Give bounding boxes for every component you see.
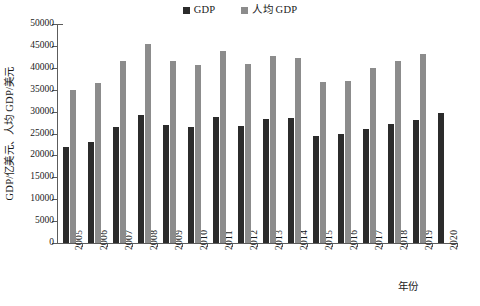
bar-per-capita-gdp-2008 (145, 44, 151, 243)
bar-per-capita-gdp-2016 (345, 81, 351, 243)
bar-per-capita-gdp-2009 (170, 61, 176, 243)
bar-gdp-2006 (88, 142, 94, 243)
chart-legend: GDP 人均 GDP (0, 5, 480, 16)
y-tick-label: 25000 (30, 128, 54, 138)
y-tick-label: 40000 (30, 62, 54, 72)
y-tick-label: 30000 (30, 106, 54, 116)
y-tick-label: 15000 (30, 171, 54, 181)
y-axis-line (57, 24, 58, 244)
bar-per-capita-gdp-2017 (370, 68, 376, 243)
bar-gdp-2011 (213, 117, 219, 243)
bar-gdp-2005 (63, 147, 69, 243)
y-tick-label: 35000 (30, 84, 54, 94)
bar-per-capita-gdp-2014 (295, 58, 301, 243)
x-axis-title: 年份 (398, 278, 419, 293)
legend-item-gdp: GDP (183, 5, 216, 16)
y-tick-label: 5000 (35, 215, 54, 225)
y-tick-label: 20000 (30, 149, 54, 159)
legend-swatch-per-capita-gdp (241, 7, 248, 14)
y-axis-title: GDP/亿美元、人均 GDP/美元 (2, 24, 16, 243)
bar-per-capita-gdp-2010 (195, 65, 201, 243)
bar-gdp-2010 (188, 127, 194, 243)
y-tick-label: 0 (49, 237, 54, 247)
bar-gdp-2019 (413, 120, 419, 243)
y-tick-label: 50000 (30, 18, 54, 28)
bar-gdp-2008 (138, 115, 144, 243)
legend-label-gdp: GDP (194, 5, 216, 16)
y-tick-label: 10000 (30, 193, 54, 203)
bar-gdp-2018 (388, 124, 394, 243)
bar-per-capita-gdp-2012 (245, 64, 251, 243)
bar-per-capita-gdp-2007 (120, 61, 126, 243)
bar-gdp-2017 (363, 129, 369, 243)
legend-item-per-capita-gdp: 人均 GDP (241, 5, 297, 16)
legend-swatch-gdp (183, 7, 190, 14)
legend-label-per-capita-gdp: 人均 GDP (252, 5, 297, 16)
bar-per-capita-gdp-2015 (320, 82, 326, 243)
bar-gdp-2007 (113, 127, 119, 243)
bar-gdp-2013 (263, 119, 269, 243)
bar-gdp-2020 (438, 113, 444, 243)
bar-per-capita-gdp-2006 (95, 83, 101, 243)
y-tick-label: 45000 (30, 40, 54, 50)
bar-per-capita-gdp-2019 (420, 54, 426, 243)
bar-gdp-2016 (338, 134, 344, 243)
bar-gdp-2014 (288, 118, 294, 243)
bar-gdp-2012 (238, 126, 244, 243)
bar-per-capita-gdp-2005 (70, 90, 76, 243)
bar-gdp-2009 (163, 125, 169, 243)
y-axis-top-tick (57, 24, 63, 25)
bar-per-capita-gdp-2013 (270, 56, 276, 243)
bar-chart: GDP 人均 GDP GDP/亿美元、人均 GDP/美元 05000100001… (0, 0, 480, 306)
y-axis-title-text: GDP/亿美元、人均 GDP/美元 (2, 67, 17, 201)
bar-gdp-2015 (313, 136, 319, 243)
plot-area: 0500010000150002000025000300003500040000… (57, 24, 457, 243)
bar-per-capita-gdp-2018 (395, 61, 401, 243)
bar-per-capita-gdp-2011 (220, 51, 226, 243)
x-tick-label: 2020 (449, 230, 459, 250)
